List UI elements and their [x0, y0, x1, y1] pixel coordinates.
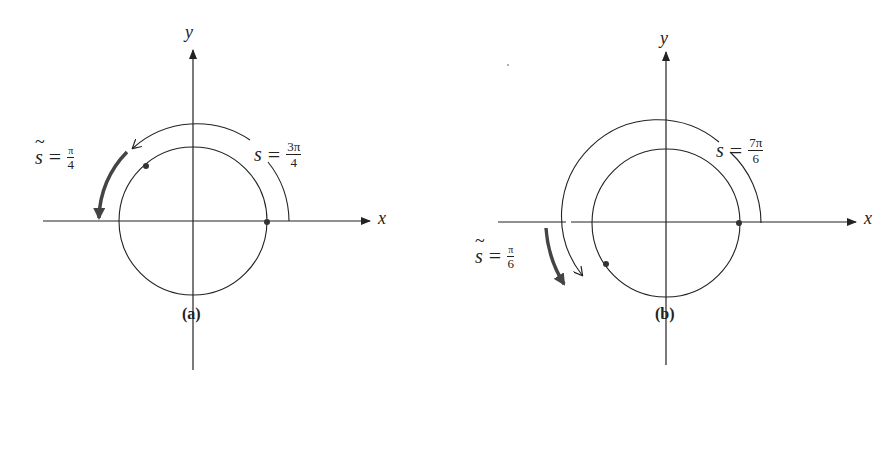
equals-tilde-b: =	[489, 243, 501, 269]
end-point-b	[603, 261, 609, 267]
panel-b	[498, 52, 856, 365]
s-num-b: 7π	[748, 136, 763, 151]
y-axis-label-a: y	[185, 22, 193, 43]
s-tilde-den-a: 4	[68, 158, 75, 170]
arc-s-b-upper	[562, 120, 719, 275]
end-point-a	[143, 163, 149, 169]
arc-s-tilde-b	[546, 228, 564, 284]
figure-canvas	[0, 0, 896, 460]
speck	[507, 64, 509, 66]
arc-s-a-upper	[133, 124, 250, 148]
caption-a: (a)	[182, 305, 201, 323]
s-tilde-num-b: π	[507, 244, 514, 257]
s-tilde-num-a: π	[67, 145, 74, 158]
x-axis-label-b: x	[864, 208, 872, 229]
s-var-b: s	[716, 139, 724, 162]
y-axis-label-b: y	[660, 28, 668, 49]
arc-s-a	[268, 162, 289, 221]
panel-a	[43, 50, 370, 370]
s-label-a: s = 3π 4	[254, 140, 301, 169]
equals-a: =	[268, 142, 280, 168]
arc-s-tilde-a	[99, 152, 127, 218]
s-tilde-var-a: s	[35, 146, 43, 169]
x-axis-label-a: x	[378, 208, 386, 229]
start-point-b	[736, 220, 742, 226]
s-tilde-var-b: s	[475, 245, 483, 268]
s-den-b: 6	[753, 151, 760, 165]
s-tilde-den-b: 6	[508, 257, 515, 269]
s-num-a: 3π	[286, 140, 301, 155]
s-label-b: s = 7π 6	[716, 136, 763, 165]
equals-b: =	[730, 138, 742, 164]
start-point-a	[264, 219, 270, 225]
equals-tilde-a: =	[49, 144, 61, 170]
caption-b: (b)	[655, 305, 675, 323]
s-var-a: s	[254, 143, 262, 166]
s-den-a: 4	[291, 155, 298, 169]
s-tilde-label-a: s = π 4	[35, 144, 74, 170]
s-tilde-label-b: s = π 6	[475, 243, 514, 269]
